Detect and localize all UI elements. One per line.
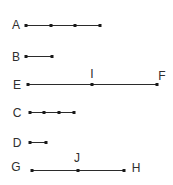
point-marker — [50, 24, 53, 27]
segment-b — [25, 55, 54, 58]
segment-d — [29, 141, 48, 144]
point-marker — [45, 141, 48, 144]
segment-label-e: E — [13, 79, 21, 91]
point-label-i: I — [90, 68, 93, 80]
point-marker — [91, 83, 94, 86]
point-marker — [29, 141, 32, 144]
segment-label-b: B — [12, 51, 20, 63]
point-marker — [74, 24, 77, 27]
point-marker — [58, 111, 61, 114]
segment-label-c: C — [13, 107, 22, 119]
segment-gh — [31, 169, 126, 172]
point-label-f: F — [158, 70, 165, 82]
point-marker — [123, 169, 126, 172]
point-marker — [77, 169, 80, 172]
segment-c — [29, 111, 76, 114]
segment-label-d: D — [13, 137, 22, 149]
point-marker — [43, 111, 46, 114]
point-marker — [156, 83, 159, 86]
segment-label-g: G — [11, 161, 20, 173]
point-marker — [25, 55, 28, 58]
segment-ef — [27, 83, 159, 86]
line-segments-diagram — [0, 0, 173, 185]
point-marker — [99, 24, 102, 27]
point-marker — [25, 24, 28, 27]
segment-label-a: A — [12, 19, 20, 31]
point-marker — [73, 111, 76, 114]
point-marker — [51, 55, 54, 58]
point-label-h: H — [132, 162, 141, 174]
point-marker — [31, 169, 34, 172]
point-label-j: J — [74, 152, 80, 164]
segment-a — [25, 24, 102, 27]
point-marker — [27, 83, 30, 86]
point-marker — [29, 111, 32, 114]
